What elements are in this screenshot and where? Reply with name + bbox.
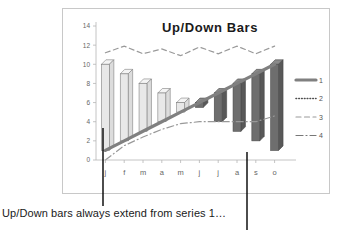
x-tick-label: m (140, 168, 146, 177)
updown-bar (252, 69, 264, 141)
y-tick-label: 2 (86, 137, 90, 144)
chart-title-group: Up/Down Bars (162, 20, 258, 35)
x-axis: jfmamjjaso (96, 160, 296, 177)
y-tick-label: 6 (86, 99, 90, 106)
updown-bar (139, 79, 151, 131)
chart-title: Up/Down Bars (162, 20, 258, 35)
x-tick-label: j (104, 168, 107, 177)
x-tick-label: o (273, 168, 277, 177)
caption-text: Up/Down bars always extend from series 1… (2, 207, 226, 219)
y-tick-label: 4 (86, 118, 90, 125)
legend-label-3[interactable]: 3 (319, 114, 323, 121)
y-axis: 02468101214 (83, 22, 96, 163)
bar-front-face (233, 83, 241, 131)
legend-label-2[interactable]: 2 (319, 95, 323, 102)
updown-bar (101, 60, 113, 151)
bar-front-face (271, 64, 279, 150)
screenshot-canvas: Up/Down Bars 02468101214 jfmamjjaso 1234… (0, 0, 342, 230)
x-tick-label: a (235, 168, 240, 177)
legend-label-1[interactable]: 1 (319, 77, 323, 84)
bar-front-face (120, 74, 128, 141)
updown-bar (120, 69, 132, 141)
x-tick-label: s (254, 168, 258, 177)
chart-legend[interactable]: 1234 (296, 77, 323, 140)
y-tick-label: 8 (86, 80, 90, 87)
bar-side-face (260, 69, 265, 141)
bar-side-face (279, 60, 284, 151)
x-tick-label: j (216, 168, 219, 177)
bar-side-face (109, 60, 114, 151)
legend-label-4[interactable]: 4 (319, 132, 323, 139)
y-tick-label: 12 (83, 42, 91, 49)
updown-bar (233, 79, 245, 131)
plot-area (101, 46, 283, 160)
x-tick-label: a (160, 168, 165, 177)
bar-front-face (101, 64, 109, 150)
series-line-3 (105, 46, 274, 56)
y-tick-label: 10 (83, 61, 91, 68)
bar-front-face (214, 93, 222, 122)
bar-side-face (241, 79, 246, 131)
bar-side-face (128, 69, 133, 141)
x-tick-label: j (198, 168, 201, 177)
y-tick-label: 0 (86, 156, 90, 163)
updown-bars-chart: Up/Down Bars 02468101214 jfmamjjaso 1234 (62, 8, 330, 194)
bar-front-face (252, 74, 260, 141)
bar-front-face (158, 93, 166, 122)
updown-bar (271, 60, 283, 151)
bar-front-face (139, 83, 147, 131)
y-tick-label: 14 (83, 22, 91, 29)
bar-side-face (222, 89, 227, 122)
x-tick-label: f (123, 168, 126, 177)
x-tick-label: m (177, 168, 183, 177)
